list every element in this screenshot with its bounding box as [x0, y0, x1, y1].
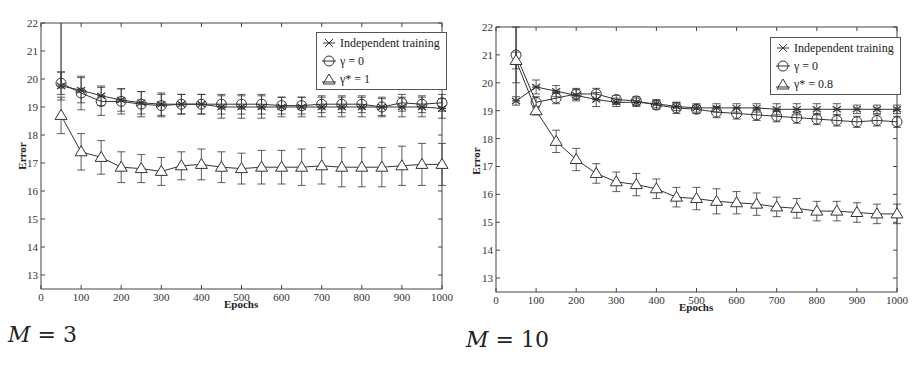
asterisk-marker-icon: [321, 37, 337, 49]
chart-panel-m10: 1314151617181920212201002003004005006007…: [460, 0, 920, 365]
svg-text:0: 0: [38, 291, 44, 303]
svg-text:200: 200: [568, 294, 585, 306]
triangle-marker-icon: [775, 78, 791, 90]
svg-text:100: 100: [73, 291, 90, 303]
svg-text:600: 600: [728, 294, 745, 306]
svg-text:600: 600: [273, 291, 290, 303]
svg-text:16: 16: [27, 185, 39, 197]
legend-item-independent: Independent training: [321, 34, 440, 52]
svg-text:1000: 1000: [886, 294, 909, 306]
svg-text:19: 19: [27, 101, 39, 113]
legend: Independent training γ = 0 γ* = 0.8: [770, 37, 901, 95]
svg-text:18: 18: [27, 129, 39, 141]
caption-m3: M = 3: [8, 322, 77, 347]
svg-text:400: 400: [193, 291, 210, 303]
svg-text:15: 15: [482, 216, 494, 228]
svg-text:18: 18: [482, 133, 494, 145]
y-axis-label: Error: [470, 147, 482, 174]
svg-text:17: 17: [482, 160, 494, 172]
svg-text:19: 19: [482, 105, 494, 117]
legend-item-gamma-star: γ* = 1: [321, 70, 440, 88]
svg-text:300: 300: [608, 294, 625, 306]
svg-text:20: 20: [482, 77, 494, 89]
svg-text:100: 100: [528, 294, 545, 306]
circle-marker-icon: [775, 60, 791, 72]
svg-text:17: 17: [27, 157, 39, 169]
svg-text:22: 22: [482, 21, 493, 33]
svg-text:1000: 1000: [431, 291, 454, 303]
svg-text:900: 900: [849, 294, 866, 306]
svg-text:21: 21: [27, 45, 38, 57]
svg-text:14: 14: [27, 241, 39, 253]
svg-text:800: 800: [809, 294, 826, 306]
caption-m10: M = 10: [466, 327, 549, 352]
svg-text:800: 800: [354, 291, 371, 303]
legend-item-gamma-star: γ* = 0.8: [775, 75, 894, 93]
circle-marker-icon: [321, 55, 337, 67]
svg-text:13: 13: [482, 272, 494, 284]
x-axis-label: Epochs: [224, 298, 258, 310]
triangle-marker-icon: [321, 73, 337, 85]
legend-item-independent: Independent training: [775, 39, 894, 57]
legend: Independent training γ = 0 γ* = 1: [316, 32, 447, 90]
svg-text:15: 15: [27, 213, 39, 225]
asterisk-marker-icon: [775, 42, 791, 54]
svg-text:0: 0: [493, 294, 499, 306]
svg-text:900: 900: [394, 291, 411, 303]
svg-text:22: 22: [27, 17, 38, 29]
svg-text:13: 13: [27, 269, 39, 281]
svg-text:700: 700: [313, 291, 330, 303]
svg-text:400: 400: [648, 294, 665, 306]
chart-panel-m3: 1314151617181920212201002003004005006007…: [0, 0, 460, 365]
svg-text:20: 20: [27, 73, 39, 85]
svg-text:300: 300: [153, 291, 170, 303]
svg-text:16: 16: [482, 188, 494, 200]
x-axis-label: Epochs: [679, 301, 713, 313]
svg-text:700: 700: [768, 294, 785, 306]
svg-text:200: 200: [113, 291, 130, 303]
svg-text:14: 14: [482, 244, 494, 256]
y-axis-label: Error: [16, 142, 28, 169]
legend-item-gamma-0: γ = 0: [321, 52, 440, 70]
svg-text:21: 21: [482, 49, 493, 61]
legend-item-gamma-0: γ = 0: [775, 57, 894, 75]
